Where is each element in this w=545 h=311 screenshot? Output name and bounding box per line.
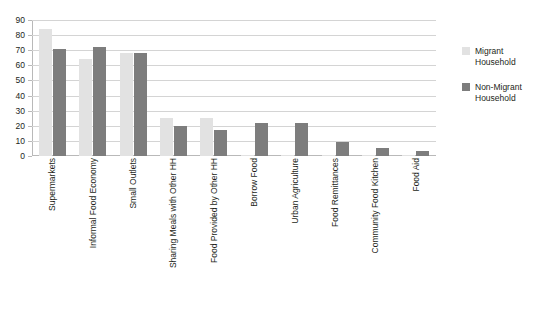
bar [200, 118, 213, 156]
x-tick-label: Food Remittances [331, 158, 340, 227]
plot-area: 0102030405060708090 [32, 20, 436, 156]
legend-swatch-nonmigrant [462, 83, 470, 91]
legend-label-line2: Household [475, 93, 522, 104]
bar-group [39, 20, 66, 156]
bar [214, 130, 227, 156]
bar [241, 155, 254, 157]
bar [376, 148, 389, 156]
bar [362, 155, 375, 157]
bar-group [322, 20, 349, 156]
bar [255, 123, 268, 156]
bar [93, 47, 106, 156]
y-tick-label: 30 [16, 106, 25, 115]
y-tick-label: 70 [16, 46, 25, 55]
bar [281, 155, 294, 157]
x-tick-label: Sharing Meals with Other HH [169, 158, 178, 268]
bar-group [120, 20, 147, 156]
chart-title-clipped [0, 0, 545, 6]
x-tick-label: Food Aid [412, 158, 421, 192]
bar-group [200, 20, 227, 156]
bar [336, 142, 349, 156]
x-tick-label: Small Outlets [129, 158, 138, 209]
bar-group [160, 20, 187, 156]
bar [295, 123, 308, 156]
y-tick-label: 80 [16, 31, 25, 40]
x-tick-label: Informal Food Economy [88, 158, 97, 248]
x-axis-labels: SupermarketsInformal Food EconomySmall O… [32, 158, 436, 308]
bar-group [241, 20, 268, 156]
legend-label-line1: Migrant [475, 46, 516, 57]
x-tick-label: Urban Agriculture [290, 158, 299, 224]
x-tick-label: Borrow Food [250, 158, 259, 207]
bar-group [79, 20, 106, 156]
y-tick-label: 10 [16, 137, 25, 146]
y-tick-label: 60 [16, 61, 25, 70]
x-tick-label: Community Food Kitchen [371, 158, 380, 253]
bar [402, 155, 415, 157]
bar [416, 151, 429, 156]
legend-label: Non-MigrantHousehold [475, 82, 522, 104]
y-tick-label: 40 [16, 91, 25, 100]
bar-group [402, 20, 429, 156]
bar [53, 49, 66, 156]
y-tick-label: 20 [16, 122, 25, 131]
x-tick-label: Supermarkets [48, 158, 57, 211]
bar [174, 126, 187, 156]
legend-label: MigrantHousehold [475, 46, 516, 68]
y-tick-mark [28, 156, 32, 157]
legend-item[interactable]: Non-MigrantHousehold [462, 82, 542, 104]
legend-swatch-migrant [462, 47, 470, 55]
bar [160, 118, 173, 156]
x-tick-label: Food Provided by Other HH [210, 158, 219, 263]
chart-legend: MigrantHouseholdNon-MigrantHousehold [462, 46, 542, 118]
bar [39, 29, 52, 156]
bars-layer [32, 20, 436, 156]
bar [134, 53, 147, 156]
bar-group [362, 20, 389, 156]
bar [79, 59, 92, 156]
bar [120, 53, 133, 156]
y-tick-label: 50 [16, 76, 25, 85]
bar-chart-figure: 0102030405060708090 SupermarketsInformal… [0, 0, 545, 311]
y-tick-label: 90 [16, 16, 25, 25]
legend-item[interactable]: MigrantHousehold [462, 46, 542, 68]
bar [322, 155, 335, 157]
legend-label-line1: Non-Migrant [475, 82, 522, 93]
y-tick-label: 0 [20, 152, 25, 161]
legend-label-line2: Household [475, 57, 516, 68]
bar-group [281, 20, 308, 156]
